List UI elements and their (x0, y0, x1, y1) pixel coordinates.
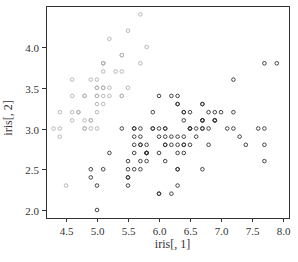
data-point-versicolor (120, 127, 124, 131)
data-point-virginica (182, 110, 186, 114)
y-axis: 2.02.53.03.54.0 (25, 42, 46, 217)
data-point-virginica (244, 143, 248, 147)
data-point-virginica (163, 127, 167, 131)
data-point-versicolor (188, 143, 192, 147)
data-point-setosa (64, 184, 68, 188)
data-point-versicolor (139, 143, 143, 147)
data-point-setosa (101, 62, 105, 66)
data-point-versicolor (157, 151, 161, 155)
data-point-virginica (213, 110, 217, 114)
data-point-versicolor (139, 127, 143, 131)
x-axis-label: iris[, 1] (155, 237, 190, 251)
data-point-virginica (263, 143, 267, 147)
data-point-versicolor (95, 184, 99, 188)
data-point-setosa (95, 78, 99, 82)
data-point-virginica (170, 94, 174, 98)
data-point-setosa (95, 110, 99, 114)
data-point-versicolor (170, 135, 174, 139)
data-point-setosa (120, 53, 124, 57)
data-point-versicolor (132, 167, 136, 171)
data-point-versicolor (163, 135, 167, 139)
data-point-setosa (139, 13, 143, 17)
data-point-setosa (95, 94, 99, 98)
data-point-setosa (58, 110, 62, 114)
x-tick-label: 7.5 (246, 225, 260, 237)
data-point-setosa (120, 94, 124, 98)
data-point-virginica (145, 143, 149, 147)
data-point-virginica (139, 167, 143, 171)
data-point-versicolor (157, 94, 161, 98)
data-point-setosa (70, 119, 74, 123)
data-point-versicolor (132, 151, 136, 155)
data-point-virginica (232, 78, 236, 82)
data-point-setosa (70, 110, 74, 114)
data-point-virginica (188, 110, 192, 114)
data-point-setosa (145, 45, 149, 49)
data-point-setosa (89, 119, 93, 123)
data-point-setosa (52, 127, 56, 131)
data-point-versicolor (194, 135, 198, 139)
data-point-versicolor (207, 143, 211, 147)
data-point-setosa (58, 135, 62, 139)
data-point-setosa (83, 119, 87, 123)
data-point-versicolor (139, 135, 143, 139)
data-point-setosa (70, 78, 74, 82)
data-point-setosa (126, 86, 130, 90)
data-point-virginica (232, 110, 236, 114)
data-point-versicolor (126, 167, 130, 171)
data-point-setosa (89, 127, 93, 131)
x-tick-label: 4.5 (60, 225, 74, 237)
data-point-virginica (207, 110, 211, 114)
data-point-virginica (225, 127, 229, 131)
data-point-versicolor (157, 135, 161, 139)
data-point-versicolor (170, 192, 174, 196)
y-tick-label: 2.0 (25, 205, 39, 217)
data-point-virginica (256, 127, 260, 131)
data-point-setosa (77, 110, 81, 114)
data-point-setosa (83, 127, 87, 131)
y-axis-label: iris[, 2] (1, 100, 15, 135)
y-tick-label: 2.5 (25, 164, 39, 176)
data-point-setosa (108, 86, 112, 90)
data-point-versicolor (95, 208, 99, 212)
data-point-setosa (95, 86, 99, 90)
data-point-virginica (207, 127, 211, 131)
data-point-virginica (213, 119, 217, 123)
data-point-versicolor (145, 159, 149, 163)
data-point-setosa (70, 94, 74, 98)
x-tick-label: 6.0 (153, 225, 167, 237)
data-point-setosa (101, 70, 105, 74)
data-point-virginica (176, 94, 180, 98)
data-point-virginica (182, 143, 186, 147)
data-point-virginica (238, 135, 242, 139)
data-point-virginica (182, 151, 186, 155)
plot-area (47, 7, 290, 219)
data-point-virginica (176, 167, 180, 171)
x-tick-label: 7.0 (215, 225, 229, 237)
data-point-virginica (176, 151, 180, 155)
data-point-virginica (263, 159, 267, 163)
x-axis: 4.55.05.56.06.57.07.58.0 (60, 218, 291, 237)
data-point-versicolor (182, 135, 186, 139)
data-point-versicolor (194, 127, 198, 131)
data-point-versicolor (126, 159, 130, 163)
data-point-setosa (126, 29, 130, 33)
data-point-virginica (176, 135, 180, 139)
data-point-virginica (176, 102, 180, 106)
data-point-virginica (201, 127, 205, 131)
data-point-versicolor (108, 151, 112, 155)
data-point-virginica (201, 167, 205, 171)
data-point-setosa (114, 70, 118, 74)
data-point-versicolor (132, 127, 136, 131)
data-point-virginica (132, 143, 136, 147)
data-point-setosa (95, 127, 99, 131)
data-point-versicolor (101, 167, 105, 171)
data-point-virginica (182, 119, 186, 123)
data-points (52, 13, 279, 212)
data-point-virginica (145, 151, 149, 155)
data-point-virginica (157, 192, 161, 196)
data-point-setosa (101, 94, 105, 98)
data-point-virginica (232, 127, 236, 131)
data-point-virginica (163, 159, 167, 163)
data-point-versicolor (89, 176, 93, 180)
